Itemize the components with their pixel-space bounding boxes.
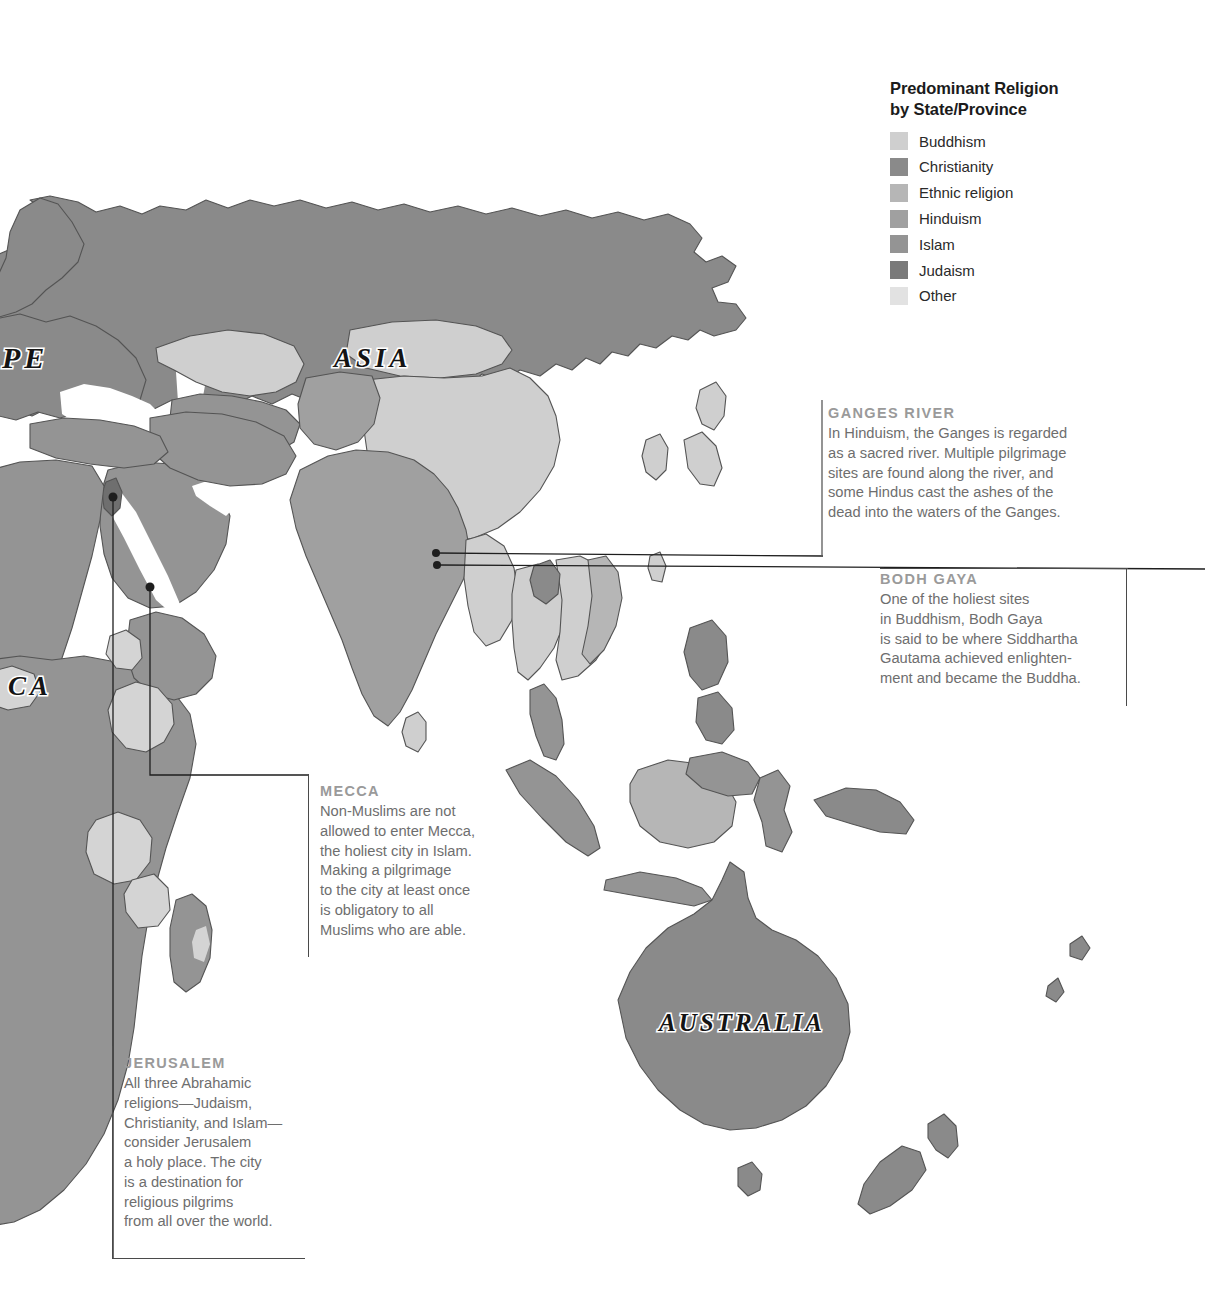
callout-mecca-body: Non-Muslims are not allowed to enter Mec… bbox=[320, 802, 535, 940]
legend-swatch-christianity bbox=[890, 158, 908, 176]
legend-items: Buddhism Christianity Ethnic religion Hi… bbox=[890, 128, 1190, 309]
callout-ganges-river: GANGES RIVER In Hinduism, the Ganges is … bbox=[828, 404, 1128, 523]
rule-jerusalem-left bbox=[112, 1046, 113, 1259]
label-australia: AUSTRALIA bbox=[657, 1009, 825, 1036]
legend-swatch-buddhism bbox=[890, 132, 908, 150]
callout-mecca-title: MECCA bbox=[320, 782, 535, 800]
label-asia: ASIA bbox=[332, 343, 412, 373]
legend-item-other[interactable]: Other bbox=[890, 283, 1190, 309]
region-sri-lanka bbox=[402, 712, 426, 752]
legend-item-judaism[interactable]: Judaism bbox=[890, 257, 1190, 283]
callout-jerusalem-body: All three Abrahamic religions—Judaism, C… bbox=[124, 1074, 324, 1232]
callout-bodhgaya-title: BODH GAYA bbox=[880, 570, 1122, 588]
legend: Predominant Religion by State/Province B… bbox=[890, 78, 1190, 309]
legend-item-christianity[interactable]: Christianity bbox=[890, 154, 1190, 180]
legend-swatch-islam bbox=[890, 235, 908, 253]
callout-ganges-body: In Hinduism, the Ganges is regarded as a… bbox=[828, 424, 1128, 523]
callout-mecca: MECCA Non-Muslims are not allowed to ent… bbox=[320, 782, 535, 940]
rule-jerusalem-bottom bbox=[112, 1258, 305, 1259]
legend-label-buddhism: Buddhism bbox=[919, 134, 986, 149]
callout-jerusalem-title: JERUSALEM bbox=[124, 1054, 324, 1072]
legend-swatch-ethnic-religion bbox=[890, 184, 908, 202]
legend-label-islam: Islam bbox=[919, 237, 955, 252]
legend-item-hinduism[interactable]: Hinduism bbox=[890, 206, 1190, 232]
legend-swatch-other bbox=[890, 287, 908, 305]
legend-item-buddhism[interactable]: Buddhism bbox=[890, 128, 1190, 154]
legend-title: Predominant Religion by State/Province bbox=[890, 78, 1190, 120]
legend-item-ethnic-religion[interactable]: Ethnic religion bbox=[890, 180, 1190, 206]
callout-bodh-gaya: BODH GAYA One of the holiest sites in Bu… bbox=[880, 570, 1128, 689]
rule-mecca-left bbox=[308, 774, 309, 957]
legend-swatch-hinduism bbox=[890, 210, 908, 228]
legend-label-judaism: Judaism bbox=[919, 263, 975, 278]
legend-label-ethnic-religion: Ethnic religion bbox=[919, 185, 1013, 200]
map-page: PE ASIA CA AUSTRALIA bbox=[0, 0, 1205, 1295]
callout-ganges-title: GANGES RIVER bbox=[828, 404, 1128, 422]
callout-jerusalem: JERUSALEM All three Abrahamic religions—… bbox=[124, 1054, 324, 1232]
legend-label-christianity: Christianity bbox=[919, 159, 993, 174]
legend-label-hinduism: Hinduism bbox=[919, 211, 982, 226]
label-europe: PE bbox=[1, 341, 48, 374]
legend-label-other: Other bbox=[919, 288, 957, 303]
legend-swatch-judaism bbox=[890, 261, 908, 279]
callout-bodhgaya-body: One of the holiest sites in Buddhism, Bo… bbox=[880, 590, 1122, 689]
label-africa: CA bbox=[8, 671, 52, 701]
legend-item-islam[interactable]: Islam bbox=[890, 231, 1190, 257]
